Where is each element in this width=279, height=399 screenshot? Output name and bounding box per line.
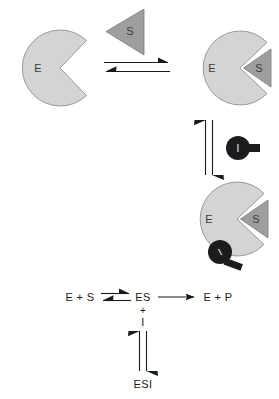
free-inhibitor-label: I — [237, 143, 240, 154]
free-substrate-label: S — [126, 25, 134, 37]
esi-complex-enzyme-label: E — [205, 213, 213, 225]
diagram-canvas: E S E S I — [0, 0, 279, 399]
equation-complex: ES — [135, 291, 150, 303]
equation-products: E + P — [203, 291, 232, 303]
enzyme-inhibition-diagram: E S E S I — [0, 0, 279, 399]
es-complex-substrate-label: S — [255, 62, 263, 74]
equation-ternary-complex: ESI — [134, 378, 153, 390]
equation-reactants: E + S — [65, 291, 94, 303]
equation-inhibitor: I — [141, 316, 144, 328]
esi-complex-substrate-label: S — [252, 213, 260, 225]
free-enzyme-label: E — [34, 62, 42, 74]
es-complex-group: E S — [203, 31, 271, 105]
es-complex-enzyme-label: E — [208, 62, 216, 74]
equation-plus-sign: + — [140, 305, 146, 316]
